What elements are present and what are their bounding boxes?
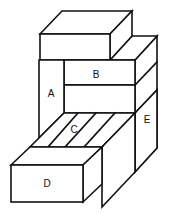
block-b: B (64, 60, 135, 113)
label-a: A (48, 88, 55, 99)
block-diagram: B A E C D (0, 0, 169, 213)
label-b: B (93, 69, 100, 80)
label-c: C (70, 124, 77, 135)
block-d: D (11, 147, 102, 202)
label-d: D (43, 178, 50, 189)
label-e: E (144, 114, 151, 125)
